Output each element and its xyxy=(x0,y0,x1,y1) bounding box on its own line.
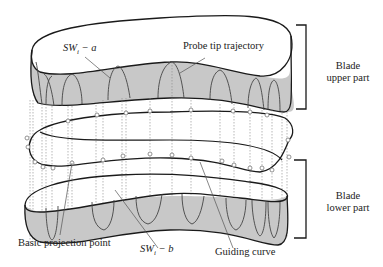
sw-b-suffix: − b xyxy=(156,243,174,254)
blade-lower-line1: Blade xyxy=(318,190,378,202)
bracket-lower xyxy=(294,160,306,238)
label-guiding-curve: Guiding curve xyxy=(215,246,275,258)
label-sw-a: SWi − a xyxy=(63,42,97,56)
sw-a-prefix: SW xyxy=(63,42,77,53)
brackets xyxy=(294,25,306,238)
blade-upper-line2: upper part xyxy=(318,72,378,84)
label-probe-tip-trajectory: Probe tip trajectory xyxy=(183,40,264,52)
label-sw-b: SWi − b xyxy=(140,243,174,257)
label-blade-upper-part: Blade upper part xyxy=(318,60,378,84)
label-basic-projection-point: Basic projection point xyxy=(18,237,111,249)
blade-upper-line1: Blade xyxy=(318,60,378,72)
guiding-curve-loop xyxy=(25,108,293,172)
blade-upper-part xyxy=(31,16,294,112)
label-blade-lower-part: Blade lower part xyxy=(318,190,378,214)
sw-a-suffix: − a xyxy=(79,42,97,53)
guiding-curve-inner xyxy=(40,132,282,160)
sw-b-prefix: SW xyxy=(140,243,154,254)
bracket-upper xyxy=(296,25,306,109)
blade-lower-line2: lower part xyxy=(318,202,378,214)
